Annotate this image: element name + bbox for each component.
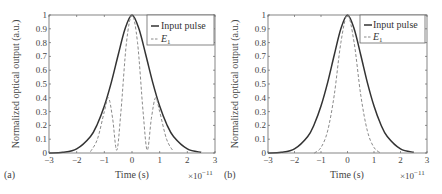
x-axis-label-a: Time (s)	[115, 169, 149, 181]
x-tick-label: −1	[100, 155, 110, 165]
y-tick-label: 0.5	[36, 79, 48, 89]
x-tick-label: −2	[290, 155, 300, 165]
y-tick-label: 0.1	[36, 134, 47, 144]
y-tick-label: 0	[43, 148, 48, 158]
y-tick-label: 0	[262, 148, 267, 158]
y-axis-label-a: Normalized optical output (a.u.)	[10, 20, 22, 149]
y-axis-label-b: Normalized optical output (a.u.)	[229, 20, 241, 149]
legend-input-pulse-b: Input pulse	[373, 19, 418, 30]
y-tick-label: 0.9	[36, 24, 48, 34]
y-tick-label: 0.8	[36, 38, 48, 48]
x-tick-label: 2	[398, 155, 403, 165]
legend-input-pulse-a: Input pulse	[161, 20, 206, 31]
panel-label-a: (a)	[4, 169, 15, 181]
x-tick-label: 3	[425, 155, 430, 165]
y-tick-label: 0.6	[36, 65, 48, 75]
x-multiplier-a: ×10−11	[188, 169, 213, 181]
y-tick-label: 0.3	[36, 107, 48, 117]
y-tick-label: 1	[262, 10, 267, 20]
y-tick-label: 0.3	[255, 107, 267, 117]
x-tick-label: −2	[72, 155, 82, 165]
x-tick-label: 0	[345, 155, 350, 165]
y-tick-label: 0.6	[255, 65, 267, 75]
y-tick-label: 0.4	[255, 93, 267, 103]
x-multiplier-b: ×10−11	[400, 169, 425, 181]
y-tick-label: 0.2	[255, 120, 266, 130]
x-tick-label: −1	[316, 155, 326, 165]
y-tick-label: 0.8	[255, 38, 267, 48]
y-tick-label: 0.9	[255, 24, 267, 34]
y-tick-label: 0.5	[255, 79, 267, 89]
x-tick-label: 2	[185, 155, 190, 165]
x-tick-label: 0	[130, 155, 135, 165]
figure: −3−2−1012300.10.20.30.40.50.60.70.80.91 …	[0, 0, 442, 194]
x-tick-label: 1	[372, 155, 377, 165]
x-tick-label: 1	[157, 155, 162, 165]
panel-b: −3−2−1012300.10.20.30.40.50.60.70.80.91 …	[224, 10, 430, 181]
y-tick-label: 0.7	[255, 51, 267, 61]
y-tick-label: 0.2	[36, 120, 47, 130]
x-axis-label-b: Time (s)	[330, 169, 364, 181]
y-tick-label: 0.4	[36, 93, 48, 103]
y-tick-label: 0.1	[255, 134, 266, 144]
legend-a: Input pulse E1	[147, 15, 214, 46]
y-tick-label: 0.7	[36, 51, 48, 61]
y-tick-label: 1	[43, 10, 48, 20]
x-tick-label: 3	[213, 155, 218, 165]
panel-a: −3−2−1012300.10.20.30.40.50.60.70.80.91 …	[4, 10, 218, 181]
panel-label-b: (b)	[224, 169, 236, 181]
legend-b: Input pulse E1	[360, 15, 425, 44]
